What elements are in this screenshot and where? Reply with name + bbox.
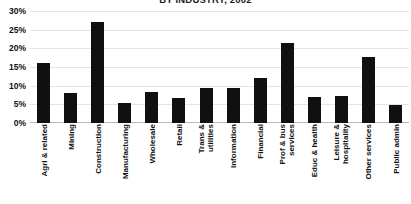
chart-title: BY INDUSTRY, 2002	[0, 0, 411, 7]
x-axis-slot: Construction	[84, 124, 111, 204]
bars-group	[30, 11, 409, 123]
bar[interactable]	[64, 93, 77, 123]
x-axis-slot: Information	[220, 124, 247, 204]
x-axis-tick-label: Manufacturing	[120, 124, 129, 179]
y-axis-tick-label: 25%	[9, 25, 26, 35]
x-axis-slot: Financial	[247, 124, 274, 204]
bar-slot	[247, 11, 274, 123]
x-axis-tick-label: Prof & bus services	[278, 124, 296, 164]
bar[interactable]	[227, 88, 240, 123]
x-axis-slot: Retail	[165, 124, 192, 204]
x-axis-tick-label: Mining	[66, 124, 75, 150]
bar-slot	[30, 11, 57, 123]
x-axis-slot: Educ & health	[301, 124, 328, 204]
x-axis-slot: Mining	[57, 124, 84, 204]
x-axis-tick-label: Other services	[364, 124, 373, 180]
bar-slot	[301, 11, 328, 123]
bar-slot	[165, 11, 192, 123]
y-axis-tick-label: 10%	[9, 81, 26, 91]
x-axis-tick-label: Wholesale	[147, 124, 156, 164]
bar[interactable]	[118, 103, 131, 123]
y-axis: 30%25%20%15%10%5%0%	[0, 11, 29, 123]
y-axis-tick-label: 0%	[14, 118, 26, 128]
y-axis-tick-label: 20%	[9, 43, 26, 53]
x-axis-tick-label: Agri & related	[39, 124, 48, 176]
bar-slot	[138, 11, 165, 123]
bar[interactable]	[172, 98, 185, 123]
x-axis: Agri & relatedMiningConstructionManufact…	[30, 124, 409, 204]
bar-slot	[111, 11, 138, 123]
x-axis-tick-label: Information	[229, 124, 238, 168]
bar[interactable]	[281, 43, 294, 123]
x-axis-tick-label: Public admin	[391, 124, 400, 174]
x-axis-tick-label: Trans & utilities	[197, 124, 215, 153]
bar-slot	[382, 11, 409, 123]
bar[interactable]	[389, 105, 402, 123]
bar-slot	[220, 11, 247, 123]
plot-area	[30, 11, 409, 123]
x-axis-slot: Agri & related	[30, 124, 57, 204]
x-axis-slot: Wholesale	[138, 124, 165, 204]
bar-slot	[355, 11, 382, 123]
x-axis-slot: Trans & utilities	[192, 124, 219, 204]
bar[interactable]	[254, 78, 267, 123]
bar-slot	[192, 11, 219, 123]
x-axis-tick-label: Educ & health	[310, 124, 319, 177]
bar-slot	[274, 11, 301, 123]
bar[interactable]	[362, 57, 375, 123]
y-axis-tick-label: 30%	[9, 6, 26, 16]
x-axis-tick-label: Retail	[174, 124, 183, 146]
x-axis-tick-label: Financial	[256, 124, 265, 159]
bar[interactable]	[200, 88, 213, 123]
x-axis-tick-label: Construction	[93, 124, 102, 174]
y-axis-tick-label: 5%	[14, 99, 26, 109]
bar[interactable]	[335, 96, 348, 123]
bar[interactable]	[91, 22, 104, 123]
x-axis-slot: Manufacturing	[111, 124, 138, 204]
bar[interactable]	[308, 97, 321, 123]
bar-slot	[57, 11, 84, 123]
x-axis-slot: Public admin	[382, 124, 409, 204]
bar-slot	[328, 11, 355, 123]
x-axis-tick-label: Leisure & hospitality	[332, 124, 350, 164]
y-axis-tick-label: 15%	[9, 62, 26, 72]
x-axis-slot: Leisure & hospitality	[328, 124, 355, 204]
bar[interactable]	[145, 92, 158, 123]
x-axis-slot: Other services	[355, 124, 382, 204]
x-axis-slot: Prof & bus services	[274, 124, 301, 204]
bar-slot	[84, 11, 111, 123]
bar-chart-figure: BY INDUSTRY, 2002 30%25%20%15%10%5%0% Ag…	[0, 0, 411, 204]
bar[interactable]	[37, 63, 50, 123]
